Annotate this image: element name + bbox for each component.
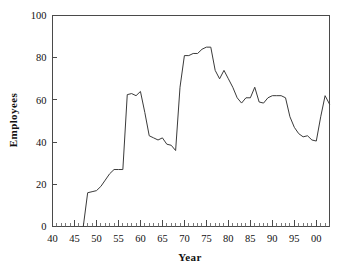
x-tick-label: 95 — [289, 233, 300, 244]
x-axis-title: Year — [178, 251, 202, 263]
x-tick-label: 00 — [311, 233, 322, 244]
chart-canvas: 020406080100 40455055606570758085909500 … — [0, 0, 344, 269]
x-tick-label: 40 — [47, 233, 58, 244]
x-tick-label: 60 — [135, 233, 146, 244]
y-tick-label: 80 — [36, 52, 47, 63]
y-tick-label: 40 — [36, 137, 47, 148]
x-tick-label: 85 — [245, 233, 256, 244]
x-tick-label: 45 — [69, 233, 80, 244]
x-tick-label: 70 — [179, 233, 190, 244]
y-tick-label: 20 — [36, 179, 47, 190]
y-tick-label: 60 — [36, 95, 47, 106]
y-tick-label: 100 — [31, 10, 47, 21]
chart-background — [0, 0, 344, 269]
line-chart: 020406080100 40455055606570758085909500 … — [0, 0, 344, 269]
x-tick-label: 75 — [201, 233, 212, 244]
x-tick-label: 50 — [91, 233, 102, 244]
x-tick-label: 90 — [267, 233, 278, 244]
y-axis-title: Employees — [7, 93, 19, 148]
x-tick-label: 80 — [223, 233, 234, 244]
x-tick-label: 55 — [113, 233, 124, 244]
y-tick-label: 0 — [41, 221, 46, 232]
x-tick-label: 65 — [157, 233, 168, 244]
